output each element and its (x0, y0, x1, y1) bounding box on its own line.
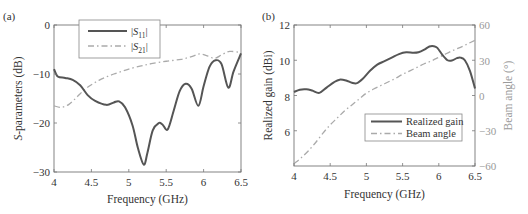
x-tick-label: 6.5 (234, 176, 248, 188)
x-tick-label: 6 (201, 176, 207, 188)
panel-a-x-tick-labels: 4 4.5 5 5.5 6 6.5 (51, 176, 248, 188)
y-tick-label: 8 (285, 91, 291, 103)
panel-a-legend: |S11| |S21| (79, 20, 160, 58)
x-tick-label: 5.5 (396, 170, 410, 182)
panel-b-y-axis-title: Realized gain (dBi) (262, 50, 275, 140)
panel-b-legend: Realized gain Beam angle (365, 114, 464, 141)
y2-tick-label: −30 (479, 125, 497, 137)
y2-tick-label: 60 (479, 19, 491, 31)
panel-b-label: (b) (262, 10, 275, 23)
figure: (a) 4 4.5 5 5.5 6 6.5 0 −10 −20 −30 Freq… (0, 0, 528, 214)
x-tick-label: 4.5 (323, 170, 337, 182)
y2-tick-label: 0 (479, 90, 485, 102)
panel-a-y-tick-labels: 0 −10 −20 −30 (33, 19, 51, 178)
panel-b-x-axis-title: Frequency (GHz) (344, 188, 425, 201)
panel-a-y-axis-title: S-parameters (dB) (12, 56, 25, 140)
s21-line (54, 51, 241, 107)
panel-b-y2-axis-title: Beam angle (°) (502, 60, 515, 130)
panel-a-label: (a) (3, 10, 16, 23)
y-tick-label: −30 (33, 166, 51, 178)
y-tick-label: 10 (279, 55, 291, 67)
panel-b-y2-tick-labels: −60 −30 0 30 60 (479, 19, 497, 172)
y-tick-label: −10 (33, 68, 51, 80)
y-tick-label: 0 (45, 19, 51, 31)
beam-angle-line (294, 40, 475, 163)
panel-b-y-tick-labels: 6 8 10 12 (279, 19, 291, 138)
panel-a-curves (54, 51, 241, 164)
y-tick-label: 12 (279, 19, 290, 31)
y2-tick-label: 30 (479, 55, 491, 67)
y-tick-label: −20 (33, 117, 51, 129)
legend-box (79, 20, 160, 58)
y-axis-title-rest: -parameters (dB) (12, 56, 25, 134)
panel-b-plot-frame (294, 25, 475, 166)
x-tick-label: 4 (51, 176, 57, 188)
s11-line (54, 53, 241, 164)
panel-b: (b) 4 4.5 5 5.5 6 6.5 6 8 10 12 −60 −30 … (262, 10, 515, 201)
panel-b-ticks (294, 25, 475, 166)
x-tick-label: 4.5 (85, 176, 99, 188)
panel-b-curves (294, 40, 475, 163)
y2-tick-label: −60 (479, 160, 497, 172)
legend-label-beam: Beam angle (406, 128, 456, 139)
panel-a-x-axis-title: Frequency (GHz) (107, 193, 188, 206)
panel-a: (a) 4 4.5 5 5.5 6 6.5 0 −10 −20 −30 Freq… (3, 10, 248, 206)
panel-b-x-tick-labels: 4 4.5 5 5.5 6 6.5 (291, 170, 482, 182)
x-tick-label: 4 (291, 170, 297, 182)
x-tick-label: 5 (126, 176, 132, 188)
x-tick-label: 5.5 (159, 176, 173, 188)
legend-label-gain: Realized gain (406, 116, 464, 127)
x-tick-label: 6 (436, 170, 442, 182)
y-tick-label: 6 (285, 126, 291, 138)
x-tick-label: 5 (364, 170, 370, 182)
